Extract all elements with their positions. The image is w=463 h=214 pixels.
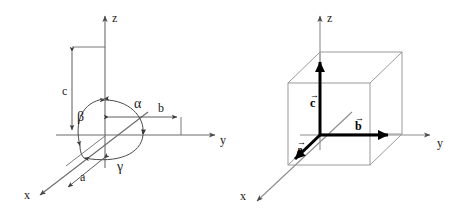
cube-edge-br — [370, 134, 402, 165]
length-c-label: c — [62, 85, 67, 97]
left-y-axis-label: y — [220, 134, 226, 146]
length-b-label: b — [158, 102, 164, 114]
cube-edge-tr — [370, 52, 402, 83]
vector-b-letter: b — [355, 119, 362, 133]
figure-canvas — [0, 0, 463, 214]
lattice-vectors — [295, 62, 388, 159]
vector-c-label: → c — [310, 93, 319, 109]
left-z-axis-label: z — [112, 12, 117, 24]
cube-edge-tl — [288, 52, 320, 83]
crystal-axes-figure: z y x c b a α β γ z y x → c → b → a — [0, 0, 463, 214]
length-a-label: a — [80, 171, 85, 183]
right-panel-axes — [257, 16, 430, 201]
vector-b-label: → b — [355, 116, 364, 132]
vector-c-letter: c — [310, 96, 315, 110]
angle-beta-label: β — [77, 110, 84, 124]
vector-a-label: → a — [297, 140, 306, 156]
length-a-dimension — [66, 136, 105, 187]
vector-a-letter: a — [297, 143, 303, 157]
angle-alpha-label: α — [134, 97, 141, 111]
right-z-axis-label: z — [327, 12, 332, 24]
left-x-axis-label: x — [24, 189, 30, 201]
length-b-dimension — [109, 117, 181, 135]
right-y-axis-label: y — [437, 137, 443, 149]
x-axis-line — [257, 112, 352, 201]
angle-gamma-label: γ — [117, 160, 123, 174]
angle-loop-lower-left — [80, 146, 84, 158]
right-x-axis-label: x — [240, 190, 246, 202]
x-axis-line — [40, 112, 148, 195]
